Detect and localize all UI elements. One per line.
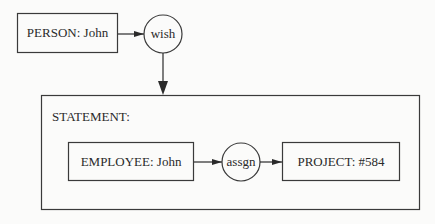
- statement-label: STATEMENT:: [52, 107, 130, 127]
- project-label: PROJECT: #584: [282, 142, 400, 181]
- wish-label: wish: [144, 15, 182, 53]
- employee-label: EMPLOYEE: John: [68, 142, 194, 181]
- assgn-label: assgn: [222, 143, 260, 181]
- person-label: PERSON: John: [17, 13, 118, 53]
